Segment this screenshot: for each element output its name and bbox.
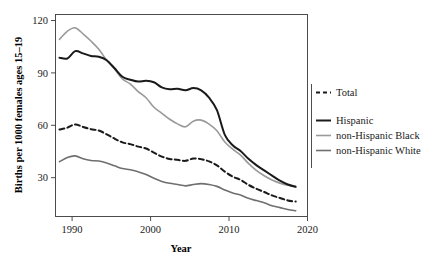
legend-item-non-hispanic-white-label: non-Hispanic White	[336, 145, 421, 156]
legend-item-total-label: Total	[336, 87, 358, 98]
x-tick-label-2000: 2000	[140, 224, 161, 235]
legend-item-hispanic-label: Hispanic	[336, 115, 374, 126]
x-axis-title: Year	[171, 243, 192, 254]
legend-item-non-hispanic-black-label: non-Hispanic Black	[336, 130, 420, 141]
x-tick-label-2010: 2010	[219, 224, 240, 235]
y-tick-label-90: 90	[38, 68, 49, 79]
y-tick-label-120: 120	[32, 15, 48, 26]
y-axis-title: Births per 1000 females ages 15–19	[13, 37, 24, 193]
x-tick-label-1990: 1990	[62, 224, 83, 235]
y-tick-label-60: 60	[38, 120, 49, 131]
x-tick-label-2020: 2020	[297, 224, 318, 235]
chart-figure: 120 90 60 30 1990 2000 2010 2020 Births …	[0, 0, 437, 260]
y-tick-label-30: 30	[38, 172, 49, 183]
line-chart-svg: 120 90 60 30 1990 2000 2010 2020 Births …	[0, 0, 437, 260]
